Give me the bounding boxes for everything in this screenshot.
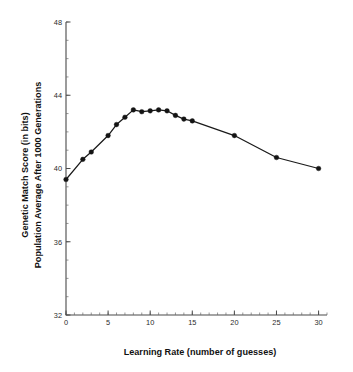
data-point — [64, 177, 69, 182]
x-axis-title: Learning Rate (number of guesses) — [124, 347, 277, 357]
ticks-group — [66, 22, 327, 315]
data-point — [156, 108, 161, 113]
x-tick-label: 10 — [146, 318, 154, 327]
y-axis-title-line1: Genetic Match Score (in bits) — [20, 112, 30, 237]
y-tick-label: 40 — [54, 164, 62, 173]
y-tick-label: 32 — [54, 311, 62, 320]
x-tick-label: 5 — [106, 318, 110, 327]
y-tick-label: 44 — [54, 91, 62, 100]
data-point — [232, 133, 237, 138]
data-point — [165, 108, 170, 113]
data-point — [182, 117, 187, 122]
axis-spines — [66, 22, 327, 315]
y-axis-title-line2: Population Average After 1000 Generation… — [33, 82, 43, 268]
data-point — [148, 108, 153, 113]
x-tick-label: 15 — [188, 318, 196, 327]
y-tick-label: 48 — [54, 18, 62, 27]
data-point — [106, 133, 111, 138]
data-point — [274, 155, 279, 160]
data-point — [139, 109, 144, 114]
x-tick-label: 0 — [64, 318, 68, 327]
tick-labels-group: 3236404448051015202530 — [54, 18, 323, 327]
data-series-group — [64, 108, 321, 182]
data-point — [173, 113, 178, 118]
data-point — [114, 122, 119, 127]
data-point — [131, 108, 136, 113]
data-point — [123, 115, 128, 120]
y-tick-label: 36 — [54, 238, 62, 247]
chart-plot-area: 3236404448051015202530 Learning Rate (nu… — [0, 0, 353, 372]
data-point — [190, 119, 195, 124]
axes-group — [66, 22, 327, 315]
chart-figure: 3236404448051015202530 Learning Rate (nu… — [0, 0, 353, 372]
data-point — [89, 150, 94, 155]
x-tick-label: 20 — [230, 318, 238, 327]
x-tick-label: 30 — [314, 318, 322, 327]
data-point — [80, 157, 85, 162]
data-point — [316, 166, 321, 171]
x-tick-label: 25 — [272, 318, 280, 327]
